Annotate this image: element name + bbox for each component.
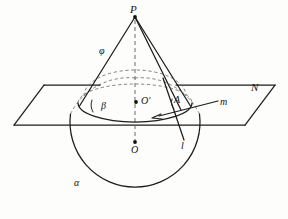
label-line-l: l [181, 141, 184, 151]
angle-arc-beta [91, 100, 93, 112]
label-plane-N: N [251, 82, 258, 93]
label-line-m: m [220, 97, 227, 107]
geometry-figure: P φ N β O′ A m l O α [0, 0, 288, 219]
label-angle-beta: β [101, 101, 106, 111]
geometry-canvas [0, 0, 288, 219]
label-angle-phi: φ [99, 46, 105, 56]
plane-right-edge [245, 85, 275, 125]
label-sphere-alpha: α [74, 178, 79, 188]
plane-left-edge [14, 85, 44, 125]
point-P-dot [133, 15, 137, 19]
point-Oprime-dot [134, 100, 138, 104]
label-sphere-center-O: O [131, 145, 138, 155]
label-apex-P: P [130, 4, 137, 15]
base-circle-direction-arrowhead [152, 114, 162, 119]
cone-left-slant-edge [80, 17, 136, 106]
label-base-center-O-prime: O′ [141, 96, 150, 106]
label-point-A: A [174, 95, 180, 105]
